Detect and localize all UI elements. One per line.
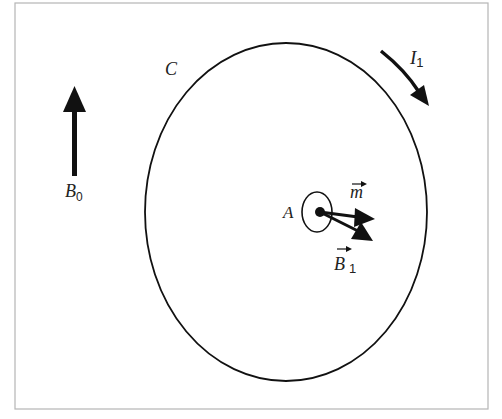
induced-field-label: B1: [334, 246, 356, 276]
external-field-arrow-icon: [63, 86, 86, 176]
loop-c-label: C: [165, 59, 178, 79]
external-field-label: B0: [65, 181, 83, 204]
svg-text:m: m: [350, 182, 363, 202]
svg-text:B1: B1: [334, 254, 356, 276]
physics-diagram: C I1 B0 A m B1: [0, 0, 502, 419]
current-label: I1: [409, 47, 424, 70]
point-a-label: A: [282, 203, 294, 222]
moment-label: m: [350, 181, 367, 202]
